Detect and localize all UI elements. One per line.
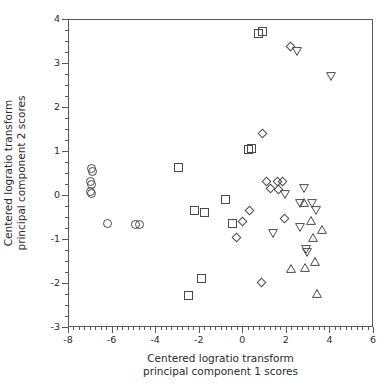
y-minor-tick bbox=[65, 261, 68, 262]
data-point-square bbox=[228, 219, 237, 228]
x-major-tick bbox=[286, 327, 287, 333]
y-minor-tick bbox=[65, 272, 68, 273]
x-tick-label: 4 bbox=[326, 335, 332, 345]
x-minor-tick bbox=[95, 327, 96, 330]
x-minor-tick bbox=[79, 327, 80, 330]
data-point-diamond bbox=[244, 206, 254, 216]
y-minor-tick bbox=[65, 41, 68, 42]
x-tick-label: -8 bbox=[63, 335, 72, 345]
y-major-tick bbox=[62, 239, 68, 240]
data-point-triangle-up bbox=[310, 257, 320, 266]
x-minor-tick bbox=[319, 327, 320, 330]
data-point-triangle-down bbox=[280, 190, 290, 199]
x-minor-tick bbox=[231, 327, 232, 330]
data-point-triangle-up bbox=[312, 289, 322, 298]
data-point-triangle-down bbox=[295, 223, 305, 232]
x-minor-tick bbox=[275, 327, 276, 330]
x-minor-tick bbox=[210, 327, 211, 330]
y-major-tick bbox=[62, 283, 68, 284]
plot-frame bbox=[68, 19, 373, 327]
x-minor-tick bbox=[346, 327, 347, 330]
data-point-diamond bbox=[279, 213, 289, 223]
data-point-square bbox=[247, 144, 256, 153]
data-point-triangle-up bbox=[308, 233, 318, 242]
y-minor-tick bbox=[65, 294, 68, 295]
x-minor-tick bbox=[128, 327, 129, 330]
x-tick-label: 2 bbox=[283, 335, 289, 345]
x-minor-tick bbox=[166, 327, 167, 330]
x-axis-title-line-1: Centered logratio transform bbox=[68, 352, 373, 365]
x-major-tick bbox=[242, 327, 243, 333]
x-minor-tick bbox=[188, 327, 189, 330]
y-axis-title-line-2: principal component 2 scores bbox=[15, 19, 28, 327]
y-minor-tick bbox=[65, 184, 68, 185]
x-minor-tick bbox=[351, 327, 352, 330]
data-point-circle bbox=[87, 189, 96, 198]
data-point-diamond bbox=[257, 277, 267, 287]
data-point-square bbox=[221, 195, 230, 204]
x-minor-tick bbox=[226, 327, 227, 330]
x-minor-tick bbox=[264, 327, 265, 330]
x-minor-tick bbox=[144, 327, 145, 330]
y-minor-tick bbox=[65, 85, 68, 86]
x-minor-tick bbox=[150, 327, 151, 330]
scatter-plot-figure: -8-6-4-20246 -3-2-101234 Centered lograt… bbox=[0, 0, 392, 385]
x-tick-label: -2 bbox=[194, 335, 203, 345]
x-tick-label: -4 bbox=[150, 335, 159, 345]
x-minor-tick bbox=[177, 327, 178, 330]
x-minor-tick bbox=[362, 327, 363, 330]
y-minor-tick bbox=[65, 206, 68, 207]
x-minor-tick bbox=[308, 327, 309, 330]
y-tick-label: -3 bbox=[38, 322, 60, 332]
y-minor-tick bbox=[65, 118, 68, 119]
y-minor-tick bbox=[65, 217, 68, 218]
data-point-diamond bbox=[237, 216, 247, 226]
x-minor-tick bbox=[335, 327, 336, 330]
x-minor-tick bbox=[313, 327, 314, 330]
x-minor-tick bbox=[101, 327, 102, 330]
plot-data-area bbox=[69, 20, 372, 326]
x-minor-tick bbox=[237, 327, 238, 330]
y-major-tick bbox=[62, 151, 68, 152]
x-minor-tick bbox=[368, 327, 369, 330]
x-minor-tick bbox=[182, 327, 183, 330]
data-point-diamond bbox=[231, 233, 241, 243]
y-tick-label: 1 bbox=[38, 146, 60, 156]
data-point-triangle-down bbox=[326, 72, 336, 81]
y-minor-tick bbox=[65, 96, 68, 97]
x-tick-label: 6 bbox=[370, 335, 376, 345]
data-point-square bbox=[197, 274, 206, 283]
y-tick-label: -1 bbox=[38, 234, 60, 244]
x-minor-tick bbox=[139, 327, 140, 330]
data-point-circle bbox=[135, 220, 144, 229]
data-point-triangle-down bbox=[299, 184, 309, 193]
y-minor-tick bbox=[65, 228, 68, 229]
x-minor-tick bbox=[259, 327, 260, 330]
y-minor-tick bbox=[65, 305, 68, 306]
data-point-triangle-up bbox=[306, 216, 316, 225]
data-point-triangle-down bbox=[292, 47, 302, 56]
x-minor-tick bbox=[302, 327, 303, 330]
x-minor-tick bbox=[297, 327, 298, 330]
data-point-diamond bbox=[257, 129, 267, 139]
y-major-tick bbox=[62, 195, 68, 196]
y-minor-tick bbox=[65, 30, 68, 31]
x-minor-tick bbox=[171, 327, 172, 330]
data-point-triangle-down bbox=[311, 206, 321, 215]
x-minor-tick bbox=[215, 327, 216, 330]
y-minor-tick bbox=[65, 162, 68, 163]
y-major-tick bbox=[62, 107, 68, 108]
x-minor-tick bbox=[161, 327, 162, 330]
x-major-tick bbox=[68, 327, 69, 333]
x-minor-tick bbox=[291, 327, 292, 330]
y-tick-label: 3 bbox=[38, 58, 60, 68]
x-minor-tick bbox=[248, 327, 249, 330]
y-major-tick bbox=[62, 19, 68, 20]
y-tick-label: 0 bbox=[38, 190, 60, 200]
y-minor-tick bbox=[65, 173, 68, 174]
data-point-triangle-up bbox=[300, 263, 310, 272]
x-minor-tick bbox=[117, 327, 118, 330]
x-axis-title-line-2: principal component 1 scores bbox=[68, 365, 373, 378]
y-minor-tick bbox=[65, 74, 68, 75]
y-minor-tick bbox=[65, 52, 68, 53]
